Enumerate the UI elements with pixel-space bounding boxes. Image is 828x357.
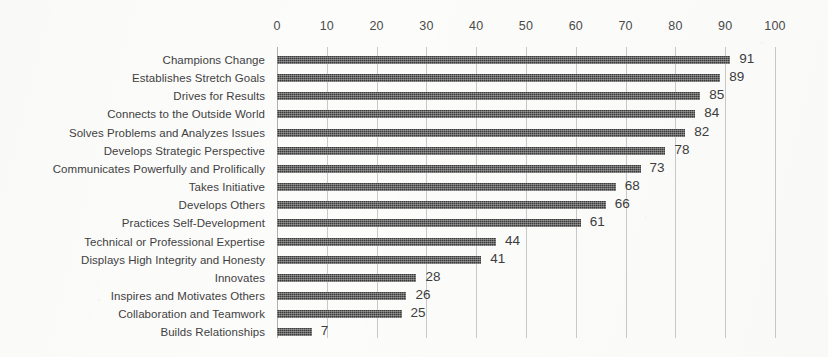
bar-value-label: 66 <box>615 195 630 213</box>
bar-value-label: 85 <box>709 86 724 104</box>
bar-value-label: 61 <box>590 213 605 231</box>
bar-row[interactable]: 44 <box>277 233 828 251</box>
category-label: Inspires and Motivates Others <box>111 287 265 305</box>
category-axis-labels: Champions ChangeEstablishes Stretch Goal… <box>0 47 271 338</box>
bar-fill <box>277 201 606 209</box>
bar-fill <box>277 310 402 318</box>
bar[interactable] <box>277 328 312 336</box>
bar[interactable] <box>277 238 496 246</box>
bar-fill <box>277 328 312 336</box>
bar-value-label: 78 <box>674 141 689 159</box>
bar-row[interactable]: 25 <box>277 305 828 323</box>
bar-value-label: 84 <box>704 104 719 122</box>
bar[interactable] <box>277 147 665 155</box>
x-tick-label-50: 50 <box>519 19 533 33</box>
bar-fill <box>277 147 665 155</box>
bar-value-label: 82 <box>694 123 709 141</box>
bar-fill <box>277 129 685 137</box>
bar-row[interactable]: 82 <box>277 124 828 142</box>
bar[interactable] <box>277 183 616 191</box>
bar-row[interactable]: 68 <box>277 178 828 196</box>
bar-fill <box>277 292 406 300</box>
category-label: Practices Self-Development <box>122 214 265 232</box>
bar[interactable] <box>277 274 416 282</box>
category-label: Builds Relationships <box>160 323 265 341</box>
category-label: Solves Problems and Analyzes Issues <box>69 124 265 142</box>
x-tick-label-90: 90 <box>718 19 732 33</box>
bar-value-label: 7 <box>321 322 329 340</box>
bar[interactable] <box>277 165 641 173</box>
bar-row[interactable]: 7 <box>277 323 828 341</box>
plot-area: 9189858482787368666144412826257 <box>277 47 775 338</box>
category-label: Displays High Integrity and Honesty <box>81 251 265 269</box>
bars-layer: 9189858482787368666144412826257 <box>277 47 775 338</box>
x-tick-label-100: 100 <box>764 19 785 33</box>
bar-value-label: 89 <box>729 68 744 86</box>
bar-value-label: 68 <box>625 177 640 195</box>
bar[interactable] <box>277 92 700 100</box>
bar-fill <box>277 219 581 227</box>
bar-fill <box>277 165 641 173</box>
category-label: Communicates Powerfully and Prolifically <box>53 160 265 178</box>
bar-fill <box>277 183 616 191</box>
bar-chart: 0102030405060708090100 91898584827873686… <box>0 0 828 357</box>
bar-value-label: 28 <box>425 268 440 286</box>
category-label: Drives for Results <box>173 87 265 105</box>
bar-fill <box>277 274 416 282</box>
bar[interactable] <box>277 56 730 64</box>
bar-fill <box>277 74 720 82</box>
bar-value-label: 44 <box>505 232 520 250</box>
bar-row[interactable]: 85 <box>277 87 828 105</box>
bar-row[interactable]: 28 <box>277 269 828 287</box>
bar-row[interactable]: 61 <box>277 214 828 232</box>
category-label: Innovates <box>215 269 265 287</box>
bar-value-label: 73 <box>650 159 665 177</box>
bar-value-label: 26 <box>415 286 430 304</box>
bar[interactable] <box>277 201 606 209</box>
bar-fill <box>277 92 700 100</box>
bar[interactable] <box>277 219 581 227</box>
category-label: Champions Change <box>163 51 265 69</box>
category-label: Develops Others <box>179 196 265 214</box>
category-label: Establishes Stretch Goals <box>132 69 265 87</box>
bar-fill <box>277 110 695 118</box>
bar-value-label: 25 <box>411 304 426 322</box>
x-axis-tick-labels: 0102030405060708090100 <box>277 19 775 39</box>
bar-value-label: 91 <box>739 50 754 68</box>
x-tick-label-80: 80 <box>668 19 682 33</box>
bar[interactable] <box>277 74 720 82</box>
x-tick-label-60: 60 <box>569 19 583 33</box>
bar-row[interactable]: 26 <box>277 287 828 305</box>
bar-row[interactable]: 73 <box>277 160 828 178</box>
bar[interactable] <box>277 129 685 137</box>
x-tick-label-70: 70 <box>618 19 632 33</box>
bar[interactable] <box>277 310 402 318</box>
x-tick-label-30: 30 <box>419 19 433 33</box>
bar[interactable] <box>277 256 481 264</box>
category-label: Technical or Professional Expertise <box>84 233 265 251</box>
bar-row[interactable]: 78 <box>277 142 828 160</box>
bar-row[interactable]: 91 <box>277 51 828 69</box>
bar-row[interactable]: 41 <box>277 251 828 269</box>
bar-row[interactable]: 66 <box>277 196 828 214</box>
category-label: Collaboration and Teamwork <box>118 305 265 323</box>
bar[interactable] <box>277 110 695 118</box>
bar-row[interactable]: 84 <box>277 105 828 123</box>
category-label: Connects to the Outside World <box>107 105 265 123</box>
x-tick-label-10: 10 <box>320 19 334 33</box>
x-tick-label-40: 40 <box>469 19 483 33</box>
bar-value-label: 41 <box>490 250 505 268</box>
x-tick-label-20: 20 <box>369 19 383 33</box>
bar-row[interactable]: 89 <box>277 69 828 87</box>
x-tick-label-0: 0 <box>273 19 280 33</box>
bar-fill <box>277 56 730 64</box>
category-label: Develops Strategic Perspective <box>104 142 265 160</box>
bar[interactable] <box>277 292 406 300</box>
bar-fill <box>277 256 481 264</box>
bar-fill <box>277 238 496 246</box>
category-label: Takes Initiative <box>189 178 265 196</box>
